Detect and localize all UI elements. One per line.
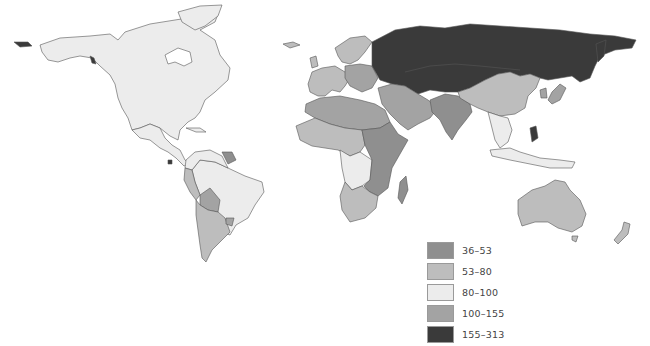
legend-label: 36–53: [462, 245, 492, 256]
legend: 36–53 53–80 80–100 100–155 155–313: [427, 241, 504, 346]
region-caribbean: [186, 128, 206, 132]
legend-item: 53–80: [427, 262, 504, 281]
region-hawaii: [168, 160, 172, 164]
legend-item: 155–313: [427, 325, 504, 344]
legend-label: 80–100: [462, 287, 498, 298]
legend-label: 53–80: [462, 266, 492, 277]
region-madagascar: [398, 176, 408, 204]
legend-swatch: [427, 242, 454, 259]
region-southeast-asia: [488, 112, 512, 148]
region-north-america: [40, 14, 230, 140]
region-uk: [310, 56, 318, 68]
region-philippines: [530, 126, 538, 142]
legend-item: 80–100: [427, 283, 504, 302]
legend-swatch: [427, 263, 454, 280]
region-japan: [548, 84, 566, 104]
legend-item: 100–155: [427, 304, 504, 323]
region-kamchatka: [596, 40, 606, 62]
region-central-america: [132, 124, 190, 166]
region-aleutian: [14, 42, 32, 47]
region-western-europe: [308, 66, 350, 96]
legend-label: 155–313: [462, 329, 504, 340]
region-australia: [518, 180, 586, 232]
legend-label: 100–155: [462, 308, 504, 319]
legend-item: 36–53: [427, 241, 504, 260]
legend-swatch: [427, 305, 454, 322]
legend-swatch: [427, 326, 454, 343]
legend-swatch: [427, 284, 454, 301]
region-korea: [540, 88, 547, 98]
region-new-zealand: [614, 222, 630, 244]
region-indonesia: [490, 148, 575, 168]
region-scandinavia: [335, 36, 372, 64]
region-iceland: [283, 42, 300, 48]
region-tasmania: [572, 236, 578, 242]
